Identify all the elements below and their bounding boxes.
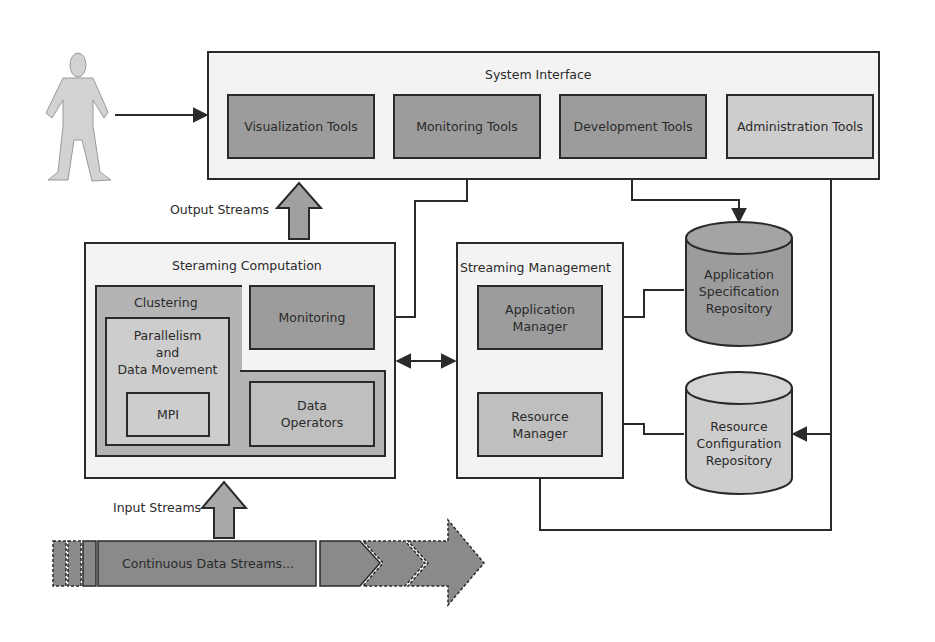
streaming-management-title: Streaming Management [460,260,611,275]
resource-config-repository-label: Resource Configuration Repository [686,418,792,469]
resource-manager-box[interactable]: Resource Manager [477,392,603,457]
administration-tools-button[interactable]: Administration Tools [726,94,874,159]
admin-to-resconfig-arrow [793,158,831,434]
development-tools-button[interactable]: Development Tools [559,94,707,159]
user-figure-icon [46,53,111,181]
app-spec-repository-label: Application Specification Repository [686,266,792,317]
monitoring-tools-button[interactable]: Monitoring Tools [393,94,541,159]
data-operators-box[interactable]: Data Operators [249,381,375,447]
system-interface-title: System Interface [485,67,592,82]
output-streams-label: Output Streams [170,202,269,217]
mpi-box[interactable]: MPI [126,392,210,437]
input-streams-label: Input Streams [113,500,201,515]
visualization-tools-button[interactable]: Visualization Tools [227,94,375,159]
streaming-computation-title: Steraming Computation [172,258,322,273]
input-streams-arrow [202,482,246,538]
application-manager-box[interactable]: Application Manager [477,285,603,350]
clustering-title: Clustering [134,295,198,310]
output-streams-arrow [277,183,321,239]
monitoring-box[interactable]: Monitoring [249,285,375,350]
data-stream-label: Continuous Data Streams... [122,556,294,571]
